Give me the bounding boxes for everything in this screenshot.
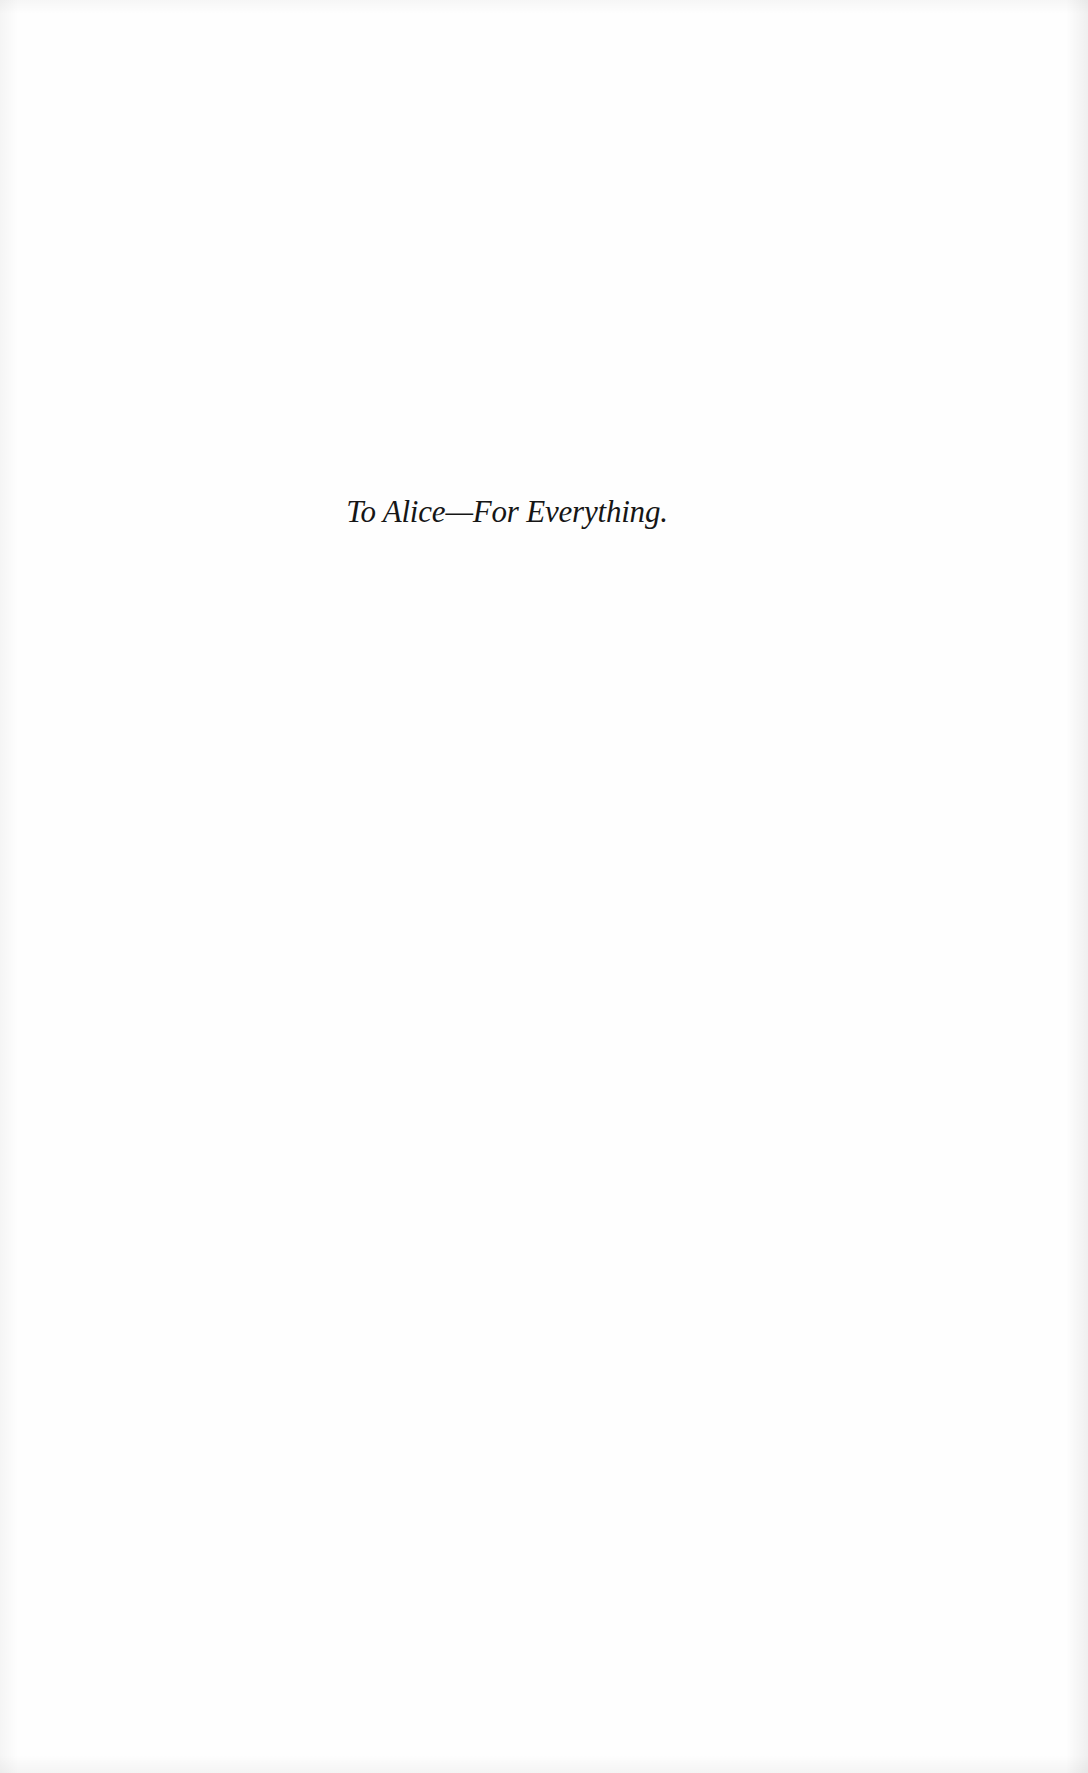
dedication-text: To Alice—For Everything. [0, 494, 1088, 530]
book-page: To Alice—For Everything. [0, 0, 1088, 1773]
